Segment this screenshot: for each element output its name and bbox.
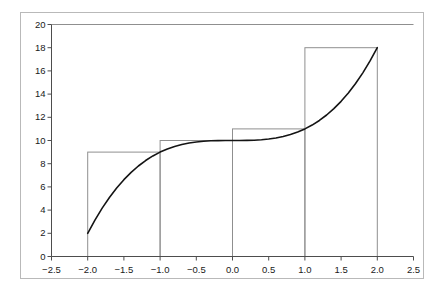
riemann-rectangles: [88, 48, 378, 257]
figure: 02468101214161820 −2.5−2.0−1.5−1.0−0.50.…: [0, 0, 440, 291]
y-tick-label: 10: [6, 135, 46, 146]
y-tick-label: 12: [6, 111, 46, 122]
x-tick-label: 0.0: [213, 264, 253, 275]
chart-plot-area: [0, 0, 440, 291]
y-tick-label: 14: [6, 88, 46, 99]
y-tick-label: 20: [6, 19, 46, 30]
riemann-rectangle: [160, 141, 232, 257]
x-tick-label: 2.5: [394, 264, 434, 275]
x-tick-label: 2.0: [357, 264, 397, 275]
y-tick-label: 2: [6, 227, 46, 238]
y-tick-label: 16: [6, 65, 46, 76]
y-axis-ticks: [48, 25, 52, 257]
x-tick-label: −0.5: [176, 264, 216, 275]
x-tick-label: −1.5: [104, 264, 144, 275]
x-tick-label: 0.5: [249, 264, 289, 275]
y-tick-label: 8: [6, 158, 46, 169]
x-tick-label: −2.0: [68, 264, 108, 275]
y-tick-label: 4: [6, 204, 46, 215]
x-tick-label: 1.5: [321, 264, 361, 275]
x-tick-label: −2.5: [32, 264, 72, 275]
y-tick-label: 0: [6, 251, 46, 262]
x-axis-ticks: [52, 257, 414, 261]
y-tick-label: 18: [6, 42, 46, 53]
riemann-rectangle: [88, 152, 160, 256]
y-tick-label: 6: [6, 181, 46, 192]
riemann-rectangle: [305, 48, 377, 257]
riemann-rectangle: [233, 129, 305, 257]
x-tick-label: 1.0: [285, 264, 325, 275]
x-tick-label: −1.0: [140, 264, 180, 275]
